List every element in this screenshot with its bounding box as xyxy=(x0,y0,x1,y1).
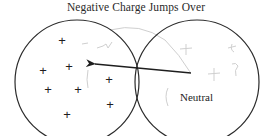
pencil-marks xyxy=(82,28,238,106)
plus-charge-icon: + xyxy=(37,64,49,77)
neutral-object-circle xyxy=(135,20,259,136)
plus-charge-icon: + xyxy=(56,34,68,47)
charged-object-circle xyxy=(15,20,139,136)
plus-charge-icon: + xyxy=(61,108,73,121)
plus-charge-icon: + xyxy=(42,83,54,96)
neutral-label: Neutral xyxy=(180,91,213,103)
plus-charge-icon: + xyxy=(72,83,84,96)
plus-charge-icon: + xyxy=(103,73,115,86)
plus-charge-icon: + xyxy=(104,98,116,111)
plus-charge-icon: + xyxy=(63,60,75,73)
